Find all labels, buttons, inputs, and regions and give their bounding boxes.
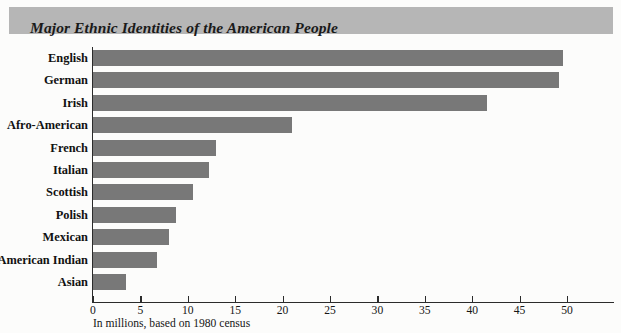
category-label: Mexican bbox=[43, 230, 88, 244]
bar-english bbox=[93, 50, 563, 66]
x-tick-label: 30 bbox=[372, 304, 384, 317]
x-axis-caption: In millions, based on 1980 census bbox=[93, 317, 250, 330]
category-label: Afro-American bbox=[7, 118, 88, 132]
category-label: Italian bbox=[53, 163, 88, 177]
category-label: Irish bbox=[63, 96, 88, 110]
bar-italian bbox=[93, 162, 209, 178]
x-tick-label: 10 bbox=[182, 304, 194, 317]
bar-asian bbox=[93, 274, 126, 290]
bar-mexican bbox=[93, 229, 169, 245]
x-tick-label: 25 bbox=[324, 304, 336, 317]
x-tick bbox=[283, 296, 284, 303]
bar-french bbox=[93, 140, 216, 156]
x-tick bbox=[567, 296, 568, 303]
category-label: Scottish bbox=[46, 185, 88, 199]
x-tick-label: 40 bbox=[466, 304, 478, 317]
x-tick-label: 0 bbox=[90, 304, 96, 317]
bar-american-indian bbox=[93, 252, 157, 268]
x-tick-label: 5 bbox=[137, 304, 143, 317]
category-label: Polish bbox=[56, 208, 88, 222]
category-label: German bbox=[44, 73, 88, 87]
category-label: French bbox=[50, 141, 88, 155]
bar-scottish bbox=[93, 184, 193, 200]
plot-area: EnglishGermanIrishAfro-AmericanFrenchIta… bbox=[0, 0, 621, 333]
chart-figure: Major Ethnic Identities of the American … bbox=[0, 0, 621, 333]
x-tick-label: 35 bbox=[419, 304, 431, 317]
x-tick-label: 20 bbox=[277, 304, 289, 317]
category-label: English bbox=[48, 51, 88, 65]
x-tick-label: 15 bbox=[229, 304, 241, 317]
category-label: American Indian bbox=[0, 253, 88, 267]
x-tick bbox=[140, 296, 141, 303]
x-tick bbox=[472, 296, 473, 303]
x-axis-line bbox=[92, 302, 614, 303]
x-tick bbox=[235, 296, 236, 303]
x-tick bbox=[330, 296, 331, 303]
x-tick bbox=[520, 296, 521, 303]
x-tick bbox=[377, 296, 378, 303]
x-tick bbox=[425, 296, 426, 303]
bar-irish bbox=[93, 95, 487, 111]
x-tick bbox=[188, 296, 189, 303]
bar-german bbox=[93, 72, 559, 88]
x-tick bbox=[93, 296, 94, 303]
bar-afro-american bbox=[93, 117, 292, 133]
category-label: Asian bbox=[58, 275, 88, 289]
x-tick-label: 45 bbox=[514, 304, 526, 317]
x-tick-label: 50 bbox=[561, 304, 573, 317]
bar-polish bbox=[93, 207, 176, 223]
